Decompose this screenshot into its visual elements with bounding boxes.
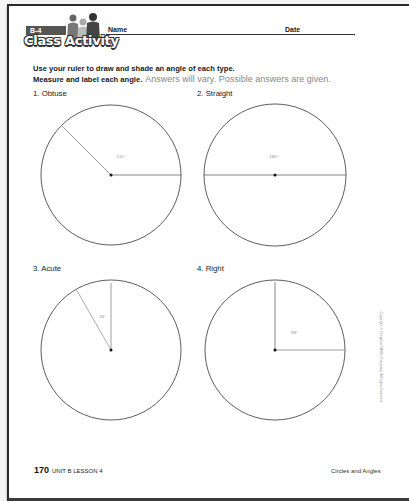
footer-topic: Circles and Angles: [331, 468, 381, 474]
angle-label-30: 30°: [99, 314, 106, 319]
right-angle-figure[interactable]: [205, 280, 345, 420]
copyright-notice: Copyright © Houghton Mifflin Company. Al…: [379, 311, 383, 402]
angle-label-180: 180°: [269, 154, 279, 159]
footer-page-info: 170UNIT B LESSON 4: [34, 465, 103, 475]
page-number: 170: [34, 465, 49, 475]
angle-label-90: 90°: [291, 330, 298, 335]
angle-label-135: 135°: [116, 154, 126, 159]
straight-angle-figure[interactable]: [204, 104, 346, 246]
acute-angle-figure[interactable]: [41, 280, 181, 420]
unit-lesson: UNIT B LESSON 4: [52, 468, 103, 474]
obtuse-angle-figure[interactable]: [41, 105, 181, 245]
